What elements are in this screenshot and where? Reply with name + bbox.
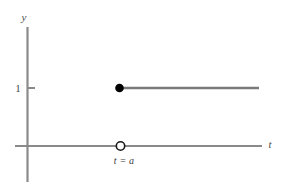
plot-background — [0, 0, 284, 186]
closed-endpoint-marker — [115, 84, 124, 93]
y-tick-label-1: 1 — [15, 82, 21, 94]
step-function-plot: y t 1 t = a — [0, 0, 284, 186]
discontinuity-annotation: t = a — [114, 155, 135, 166]
figure-container: y t 1 t = a — [0, 0, 284, 186]
open-endpoint-marker — [116, 142, 124, 150]
y-axis-label: y — [21, 11, 27, 23]
